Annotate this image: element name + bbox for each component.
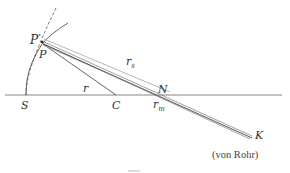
caption: (von Rohr) — [212, 149, 259, 161]
label-k: K — [254, 129, 264, 142]
label-rs-sub: s — [131, 62, 135, 70]
label-p: P — [38, 48, 47, 61]
label-c: C — [112, 99, 121, 112]
point-p-prime — [41, 41, 44, 44]
label-p-prime: P′ — [29, 33, 41, 47]
label-n: N — [157, 83, 168, 96]
radius-rm-line-outer — [43, 45, 161, 97]
label-rm-sub: m — [158, 105, 165, 113]
parallel-line — [44, 39, 170, 92]
optics-diagram: P′ P S C N K r rs rm (von Rohr) — [0, 0, 290, 173]
label-s: S — [21, 99, 29, 112]
label-rm: rm — [153, 98, 165, 113]
label-rs: rs — [126, 55, 135, 70]
label-r: r — [83, 82, 89, 95]
radius-rs-line-1 — [42, 41, 252, 136]
